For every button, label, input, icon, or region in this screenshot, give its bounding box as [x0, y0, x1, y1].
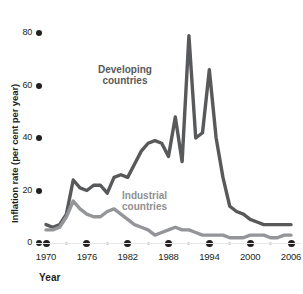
series-label-industrial-countries: Industrial countries	[122, 190, 167, 212]
x-axis-title: Year	[39, 272, 61, 283]
plot-area	[0, 0, 303, 294]
series-line-developing-countries	[46, 36, 291, 228]
series-label-developing-countries: Developing countries	[98, 64, 152, 86]
inflation-rate-chart: Inflation rate (per cent per year) 02040…	[0, 0, 303, 294]
